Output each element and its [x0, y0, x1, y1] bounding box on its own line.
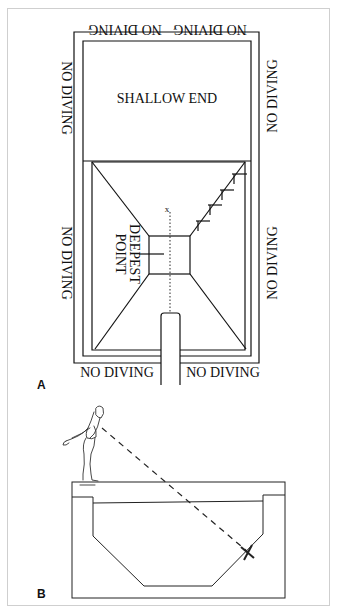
- no-diving-right-upper: NO DIVING: [265, 59, 280, 133]
- no-diving-bottom-right: NO DIVING: [186, 365, 260, 380]
- panel-b-side-view: [72, 428, 285, 598]
- diver-figure: [63, 406, 104, 485]
- sight-line: [102, 428, 248, 552]
- deepest-point-square: [149, 236, 190, 274]
- diving-board: [161, 313, 180, 385]
- no-diving-bottom-left: NO DIVING: [80, 365, 154, 380]
- no-diving-top-right: NO DIVING: [173, 22, 247, 37]
- no-diving-right-lower: NO DIVING: [265, 226, 280, 300]
- panel-a-label: A: [37, 378, 46, 392]
- no-diving-top-left: NO DIVING: [88, 22, 162, 37]
- no-diving-left-lower: NO DIVING: [59, 226, 74, 300]
- pool-wall-outline: [83, 41, 251, 356]
- pool-cross-section-outer: [72, 482, 285, 598]
- shallow-end-label: SHALLOW END: [117, 91, 217, 106]
- panel-b-label: B: [37, 587, 46, 601]
- water-line: [93, 501, 263, 503]
- deepest-label-line1: DEEPEST: [127, 224, 142, 284]
- deepest-label-line2: POINT: [113, 233, 128, 275]
- no-diving-left-upper: NO DIVING: [59, 61, 74, 135]
- target-x-mark: x: [165, 204, 170, 214]
- pool-basin-profile: [93, 495, 263, 586]
- pool-diagram: x NO DIVING NO DIVING NO DIVING NO DIVIN…: [0, 0, 337, 613]
